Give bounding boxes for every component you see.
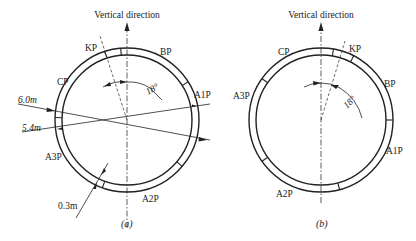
joint-a1p-a2p-a [177,162,182,167]
vertical-arrow-b-icon [319,22,324,31]
vertical-direction-label-b: Vertical direction [288,10,354,20]
segment-label-bp-a: BP [160,47,172,57]
outer-diameter-label: 6.0m [18,95,37,105]
joint-kp-right-a [121,48,122,55]
segment-label-cp-a: CP [57,77,69,87]
vertical-arrow-icon [125,22,130,31]
segment-label-kp-b: KP [349,44,361,54]
inner-diameter-label: 5.4m [22,123,41,133]
thickness-label: 0.3m [58,201,78,211]
angle-label-a: 18° [144,81,161,96]
joint-a2p-a3p-a [102,181,104,188]
vertical-direction-label-a: Vertical direction [94,10,160,20]
joint-bp-a1p-a [182,82,188,86]
joint-a2p-a3p-b [262,157,268,161]
dim-arrow-inner-left-icon [57,128,62,131]
joint-a3p-cp-b [262,79,268,83]
joint-kp-right-b [351,56,354,62]
figure-a: Vertical direction 18° 6.0m 5.4m [18,10,211,230]
segment-label-bp-b: BP [384,79,396,89]
segment-label-a3p-b: A3P [233,91,250,101]
segment-label-a1p-a: A1P [194,90,211,100]
joint-a1p-a2p-b [338,183,340,190]
angle-label-b: 18° [341,94,358,111]
angle-arrow-left-icon [104,82,111,87]
thickness-arrow-2-icon [101,168,106,175]
dim-line-inner-a [22,104,210,132]
caption-b: (b) [316,218,328,230]
segment-label-a2p-b: A2P [276,189,293,199]
segment-label-a2p-a: A2P [142,194,159,204]
joint-kp-left-b [332,49,333,56]
segment-label-a1p-b: A1P [386,146,403,156]
angle-arrow-right-icon [120,80,127,84]
figure-b: Vertical direction 18° KP BP A1P A2P A3P… [233,10,403,230]
dim-arrow-outer-left-icon [47,108,56,113]
segment-label-cp-b: CP [278,47,290,57]
segment-label-kp-a: KP [85,43,97,53]
caption-a: (a) [121,218,133,230]
tunnel-lining-diagram: Vertical direction 18° 6.0m 5.4m [0,0,416,241]
joint-kp-left-a [104,51,107,57]
angle-arrow-left-b-icon [313,81,321,86]
segment-label-a3p-a: A3P [45,152,62,162]
